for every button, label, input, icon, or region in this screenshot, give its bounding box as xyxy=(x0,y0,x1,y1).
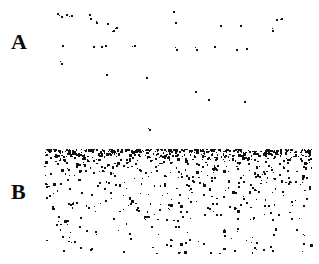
scatter-dot xyxy=(198,164,200,166)
scatter-dot xyxy=(74,241,76,243)
scatter-dot xyxy=(171,199,172,200)
scatter-dot xyxy=(124,182,125,183)
scatter-dot xyxy=(101,155,103,157)
scatter-dot xyxy=(184,251,187,254)
scatter-dot xyxy=(60,224,61,225)
scatter-dot xyxy=(208,99,210,101)
scatter-dot xyxy=(258,191,260,193)
scatter-dot xyxy=(237,151,239,153)
scatter-dot xyxy=(214,177,216,179)
scatter-dot xyxy=(73,202,74,203)
scatter-dot xyxy=(135,203,136,204)
scatter-dot xyxy=(186,211,188,213)
scatter-dot xyxy=(290,152,291,153)
scatter-dot xyxy=(164,185,166,187)
scatter-dot xyxy=(55,161,56,162)
scatter-dot xyxy=(155,166,157,168)
scatter-dot xyxy=(118,149,119,150)
scatter-dot xyxy=(228,187,229,188)
scatter-dot xyxy=(299,218,300,219)
scatter-dot xyxy=(212,203,214,205)
scatter-dot xyxy=(78,179,81,182)
scatter-dot xyxy=(136,209,138,211)
scatter-dot xyxy=(304,190,305,191)
scatter-dot xyxy=(46,186,48,188)
scatter-dot xyxy=(55,154,57,156)
scatter-dot xyxy=(93,160,95,162)
scatter-dot xyxy=(115,184,117,186)
scatter-dot xyxy=(264,205,266,207)
panel-b: B xyxy=(0,140,319,264)
scatter-dot xyxy=(185,242,187,244)
scatter-dot xyxy=(85,170,87,172)
scatter-dot xyxy=(214,157,215,158)
scatter-dot xyxy=(144,216,146,218)
scatter-dot xyxy=(130,203,133,206)
scatter-dot xyxy=(156,149,157,150)
scatter-dot xyxy=(260,183,261,184)
scatter-dot xyxy=(137,168,138,169)
scatter-dot xyxy=(243,152,244,153)
scatter-dot xyxy=(151,172,152,173)
scatter-dot xyxy=(128,167,129,168)
scatter-dot xyxy=(164,175,167,178)
scatter-dot xyxy=(176,167,177,168)
scatter-dot xyxy=(154,214,155,215)
scatter-dot xyxy=(168,156,170,158)
scatter-dot xyxy=(249,170,250,171)
scatter-dot xyxy=(276,150,278,152)
scatter-dot xyxy=(140,151,142,153)
scatter-dot xyxy=(238,150,239,151)
scatter-dot xyxy=(159,209,161,211)
scatter-dot xyxy=(71,15,73,17)
scatter-dot xyxy=(209,151,210,152)
scatter-dot xyxy=(246,202,248,204)
scatter-dot xyxy=(147,152,149,154)
scatter-dot xyxy=(148,176,149,177)
scatter-dot xyxy=(173,220,174,221)
scatter-dot xyxy=(221,156,222,157)
scatter-dot xyxy=(159,157,160,158)
scatter-dot xyxy=(104,188,106,190)
scatter-dot xyxy=(72,156,73,157)
scatter-dot xyxy=(113,30,115,32)
scatter-dot xyxy=(234,250,236,252)
scatter-dot xyxy=(244,101,246,103)
scatter-dot xyxy=(47,155,48,156)
scatter-dot xyxy=(76,150,77,151)
scatter-dot xyxy=(238,182,240,184)
scatter-dot xyxy=(304,162,307,165)
scatter-dot xyxy=(257,161,258,162)
scatter-dot xyxy=(275,228,278,231)
scatter-dot xyxy=(97,149,98,150)
scatter-dot xyxy=(131,151,133,153)
scatter-dot xyxy=(279,163,281,165)
scatter-dot xyxy=(226,151,227,152)
scatter-dot xyxy=(268,153,269,154)
scatter-dot xyxy=(107,23,109,25)
scatter-dot xyxy=(71,242,72,243)
scatter-dot xyxy=(219,149,221,151)
scatter-dot xyxy=(62,151,63,152)
scatter-dot xyxy=(280,19,281,20)
scatter-dot xyxy=(203,194,205,196)
scatter-dot xyxy=(215,159,217,161)
scatter-dot xyxy=(199,182,201,184)
scatter-dot xyxy=(242,155,244,157)
scatter-dot xyxy=(281,180,284,183)
scatter-dot xyxy=(110,192,112,194)
scatter-dot xyxy=(101,46,103,48)
scatter-dot xyxy=(296,171,297,172)
scatter-dot xyxy=(193,181,195,183)
scatter-dot xyxy=(59,15,60,16)
scatter-dot xyxy=(265,155,267,157)
scatter-dot xyxy=(263,249,265,251)
scatter-dot xyxy=(112,31,113,32)
scatter-dot xyxy=(106,74,108,76)
scatter-dot xyxy=(220,25,222,27)
scatter-dot xyxy=(119,211,120,212)
scatter-dot xyxy=(146,77,148,79)
scatter-dot xyxy=(234,155,235,156)
scatter-dot xyxy=(280,155,282,157)
scatter-dot xyxy=(82,158,84,160)
